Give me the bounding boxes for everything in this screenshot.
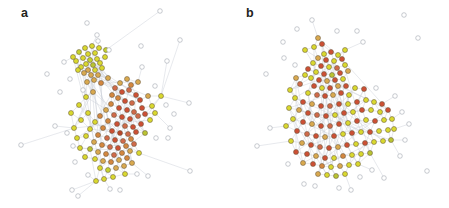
graph-node bbox=[125, 108, 130, 113]
graph-node-isolated bbox=[172, 112, 177, 117]
graph-node bbox=[314, 154, 319, 159]
graph-node bbox=[356, 162, 361, 167]
graph-node bbox=[312, 84, 317, 89]
graph-node bbox=[98, 166, 103, 171]
graph-node bbox=[123, 124, 128, 129]
graph-node bbox=[88, 127, 93, 132]
graph-node bbox=[337, 122, 342, 127]
graph-node bbox=[341, 132, 346, 137]
graph-node-isolated bbox=[45, 72, 50, 77]
graph-edge bbox=[72, 181, 96, 190]
graph-node bbox=[143, 112, 148, 117]
graph-node bbox=[389, 138, 394, 143]
graph-node bbox=[316, 172, 321, 177]
graph-node bbox=[333, 113, 338, 118]
graph-node bbox=[328, 104, 333, 109]
graph-node bbox=[347, 163, 352, 168]
graph-node bbox=[125, 77, 130, 82]
graph-node bbox=[297, 108, 302, 113]
panel-b: b bbox=[225, 0, 449, 208]
graph-node bbox=[301, 120, 306, 125]
graph-node bbox=[298, 82, 303, 87]
graph-node-isolated bbox=[154, 136, 159, 141]
graph-node bbox=[386, 128, 391, 133]
graph-node bbox=[76, 68, 81, 73]
graph-node bbox=[94, 179, 99, 184]
graph-node-isolated bbox=[62, 60, 67, 65]
graph-node bbox=[92, 78, 97, 83]
graph-node bbox=[96, 133, 101, 138]
graph-node bbox=[315, 93, 320, 98]
graph-node bbox=[85, 80, 90, 85]
graph-node bbox=[143, 131, 148, 136]
graph-node bbox=[378, 110, 383, 115]
graph-node bbox=[293, 96, 298, 101]
graph-node bbox=[103, 55, 108, 60]
graph-node-isolated bbox=[188, 169, 193, 174]
edge-layer bbox=[257, 20, 409, 190]
graph-edge bbox=[155, 113, 170, 128]
graph-node-isolated bbox=[393, 94, 398, 99]
graph-node-isolated bbox=[398, 154, 403, 159]
graph-node bbox=[93, 68, 98, 73]
graph-edge bbox=[257, 141, 291, 146]
graph-node bbox=[343, 48, 348, 53]
graph-node bbox=[328, 124, 333, 129]
graph-node bbox=[312, 45, 317, 50]
graph-node bbox=[126, 132, 131, 137]
graph-node bbox=[344, 84, 349, 89]
graph-node bbox=[325, 173, 330, 178]
graph-node-isolated bbox=[85, 21, 90, 26]
graph-node bbox=[342, 111, 347, 116]
graph-node bbox=[322, 72, 327, 77]
graph-node bbox=[84, 62, 89, 67]
graph-node bbox=[124, 144, 129, 149]
graph-node bbox=[353, 86, 358, 91]
graph-edge bbox=[161, 96, 189, 103]
graph-node-isolated bbox=[95, 33, 100, 38]
graph-node bbox=[346, 69, 351, 74]
graph-node bbox=[288, 88, 293, 93]
graph-node bbox=[345, 143, 350, 148]
graph-node bbox=[315, 113, 320, 118]
graph-edge bbox=[21, 128, 74, 145]
graph-node bbox=[382, 118, 387, 123]
graph-node bbox=[327, 65, 332, 70]
graph-node bbox=[116, 146, 121, 151]
graph-node bbox=[316, 56, 321, 61]
graph-node bbox=[341, 154, 346, 159]
graph-node bbox=[322, 52, 327, 57]
graph-node bbox=[323, 135, 328, 140]
graph-node bbox=[132, 110, 137, 115]
graph-node-isolated bbox=[361, 40, 366, 45]
graph-node bbox=[106, 168, 111, 173]
graph-node-isolated bbox=[264, 72, 269, 77]
graph-node bbox=[327, 146, 332, 151]
graph-node bbox=[128, 117, 133, 122]
graph-node bbox=[347, 93, 352, 98]
graph-node-isolated bbox=[146, 174, 151, 179]
graph-node bbox=[306, 111, 311, 116]
graph-node bbox=[341, 77, 346, 82]
graph-node bbox=[390, 117, 395, 122]
graph-node-isolated bbox=[118, 188, 123, 193]
graph-node bbox=[392, 127, 397, 132]
graph-node bbox=[339, 91, 344, 96]
graph-node-isolated bbox=[358, 175, 363, 180]
panel-a: a bbox=[0, 0, 225, 208]
graph-node-isolated bbox=[337, 186, 342, 191]
graph-node-isolated bbox=[416, 36, 421, 41]
graph-node bbox=[295, 129, 300, 134]
graph-node bbox=[129, 137, 134, 142]
graph-node-isolated bbox=[293, 63, 298, 68]
graph-node-isolated bbox=[139, 44, 144, 49]
graph-node-isolated bbox=[374, 86, 379, 91]
graph-edge bbox=[106, 11, 160, 50]
graph-node bbox=[340, 57, 345, 62]
graph-node-isolated bbox=[407, 122, 412, 127]
graph-node-isolated bbox=[355, 29, 360, 34]
graph-node bbox=[323, 94, 328, 99]
graph-node bbox=[303, 73, 308, 78]
graph-node bbox=[120, 90, 125, 95]
graph-node bbox=[106, 119, 111, 124]
